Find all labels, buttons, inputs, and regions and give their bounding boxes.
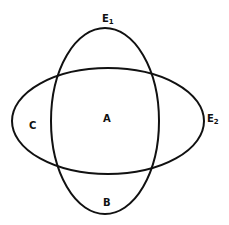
label-e2: E2	[207, 113, 219, 126]
region-label-c: C	[29, 120, 36, 131]
region-label-a: A	[103, 113, 111, 124]
region-label-b: B	[103, 197, 111, 208]
venn-diagram: E1 E2 C A B	[0, 0, 229, 225]
label-e1: E1	[102, 13, 114, 26]
